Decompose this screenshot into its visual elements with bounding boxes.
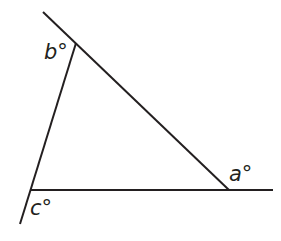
angle-label-c: c° <box>30 196 52 220</box>
triangle-diagram: b° a° c° <box>0 0 281 241</box>
line-top-diagonal <box>43 12 229 190</box>
angle-label-a: a° <box>229 162 252 186</box>
angle-label-b: b° <box>44 40 68 64</box>
